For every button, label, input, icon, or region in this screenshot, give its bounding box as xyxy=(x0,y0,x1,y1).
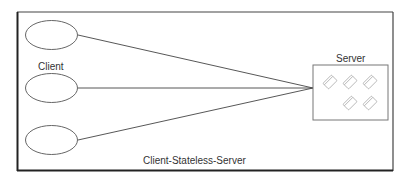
connection-line-client-1 xyxy=(78,35,313,88)
connection-line-client-3 xyxy=(78,88,313,140)
client-node-3 xyxy=(26,126,78,155)
server-label: Server xyxy=(336,54,365,64)
server-node xyxy=(313,65,388,120)
client-node-1 xyxy=(26,21,78,50)
client-node-2 xyxy=(26,74,78,103)
client-label: Client xyxy=(38,62,64,72)
connections xyxy=(78,35,313,140)
clients xyxy=(26,21,78,155)
diagram-caption: Client-Stateless-Server xyxy=(143,156,246,166)
